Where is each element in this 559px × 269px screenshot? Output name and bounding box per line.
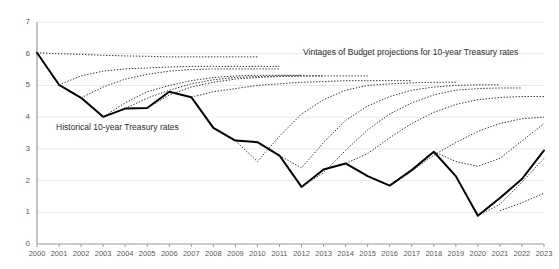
- series-line: [500, 193, 544, 210]
- y-axis-tick-label: 1: [12, 208, 30, 216]
- series-line: [59, 66, 279, 84]
- series-line: [434, 123, 544, 166]
- y-axis-tick-label: 6: [12, 50, 30, 58]
- series-line: [346, 97, 544, 164]
- y-axis-tick-label: 4: [12, 113, 30, 121]
- y-axis-tick-label: 5: [12, 81, 30, 89]
- plot-area: [0, 0, 559, 269]
- annotation-historical-label: Historical 10-year Treasury rates: [56, 122, 179, 132]
- y-axis-tick-label: 3: [12, 145, 30, 153]
- annotation-vintages-label: Vintages of Budget projections for 10-ye…: [303, 47, 518, 57]
- series-line: [191, 81, 411, 97]
- x-axis-tick-label: 2023: [529, 250, 559, 258]
- series-line: [302, 88, 522, 187]
- series-line: [390, 117, 544, 186]
- series-line: [37, 53, 544, 216]
- series-layer: [37, 53, 544, 216]
- chart-container: 01234567 2000200120022003200420052006200…: [0, 0, 559, 269]
- y-axis-tick-label: 2: [12, 177, 30, 185]
- y-axis-tick-label: 0: [12, 240, 30, 248]
- series-line: [279, 85, 499, 168]
- y-axis-tick-label: 7: [12, 18, 30, 26]
- series-line: [125, 76, 323, 109]
